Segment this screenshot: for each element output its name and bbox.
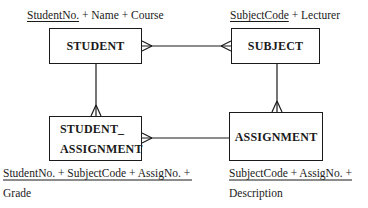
entity-assignment: ASSIGNMENT (229, 112, 323, 161)
relationship-subject-assignment (272, 64, 282, 112)
subject-attributes-label: SubjectCode + Lecturer (230, 8, 340, 22)
entity-name: ASSIGNMENT (235, 127, 318, 147)
entity-name: SUBJECT (248, 36, 303, 56)
subject-other-attributes: + Lecturer (289, 9, 340, 21)
entity-name-line2: ASSIGNMENT (60, 139, 143, 159)
student-assignment-other-attributes: Grade (3, 186, 31, 200)
entity-name-line1: STUDENT_ (60, 119, 124, 139)
crows-foot-icon (142, 133, 152, 138)
student-assignment-key-label: StudentNo. + SubjectCode + AssigNo. + (3, 166, 190, 180)
relationship-studentassignment-assignment (142, 133, 229, 143)
assignment-key-label: SubjectCode + AssigNo. + (229, 166, 352, 180)
student-attributes-label: StudentNo. + Name + Course (27, 8, 164, 22)
crows-foot-icon (142, 41, 152, 46)
entity-subject: SUBJECT (231, 28, 320, 64)
er-diagram: StudentNo. + Name + Course SubjectCode +… (0, 0, 368, 208)
subject-primary-key: SubjectCode (230, 9, 289, 21)
entity-name: STUDENT (66, 36, 124, 56)
relationship-student-studentassignment (91, 64, 101, 116)
crows-foot-icon (272, 101, 277, 112)
entity-student: STUDENT (49, 28, 142, 64)
student-primary-key: StudentNo. (27, 9, 79, 21)
assignment-other-attributes: Description (229, 186, 283, 200)
crows-foot-icon (91, 105, 96, 116)
student-other-attributes: + Name + Course (79, 9, 164, 21)
crows-foot-icon (221, 41, 231, 46)
entity-student-assignment: STUDENT_ ASSIGNMENT (49, 116, 142, 161)
relationship-student-subject (142, 41, 231, 51)
